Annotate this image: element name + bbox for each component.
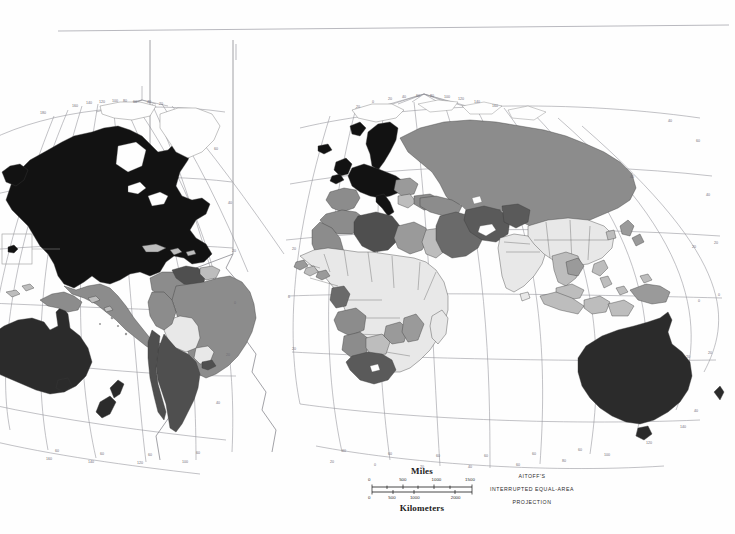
svg-text:20: 20 (714, 241, 718, 245)
svg-text:0: 0 (234, 301, 236, 305)
svg-text:60: 60 (148, 453, 152, 457)
svg-text:60: 60 (516, 463, 520, 467)
svg-text:60: 60 (388, 452, 392, 456)
svg-text:20: 20 (356, 105, 360, 109)
svg-text:60: 60 (55, 449, 59, 453)
svg-text:60: 60 (532, 452, 536, 456)
svg-text:20: 20 (708, 351, 712, 355)
svg-text:40: 40 (216, 401, 220, 405)
svg-text:60: 60 (196, 451, 200, 455)
svg-text:120: 120 (99, 100, 105, 104)
svg-text:20: 20 (292, 347, 296, 351)
svg-text:40: 40 (402, 95, 406, 99)
svg-text:40: 40 (706, 193, 710, 197)
svg-text:20: 20 (692, 245, 696, 249)
svg-text:80: 80 (430, 94, 434, 98)
svg-text:40: 40 (694, 409, 698, 413)
svg-text:20: 20 (292, 247, 296, 251)
svg-text:60: 60 (696, 139, 700, 143)
svg-text:120: 120 (458, 97, 464, 101)
svg-text:60: 60 (416, 94, 420, 98)
svg-text:60: 60 (342, 449, 346, 453)
svg-text:20: 20 (330, 460, 334, 464)
svg-text:60: 60 (436, 454, 440, 458)
svg-text:140: 140 (680, 425, 686, 429)
svg-text:140: 140 (474, 100, 480, 104)
svg-text:60: 60 (100, 452, 104, 456)
svg-text:60: 60 (578, 448, 582, 452)
svg-text:160: 160 (72, 104, 78, 108)
projection-line-2: INTERRUPTED EQUAL-AREA (452, 483, 612, 496)
svg-text:20: 20 (159, 102, 163, 106)
svg-text:0: 0 (288, 295, 290, 299)
svg-text:20: 20 (388, 97, 392, 101)
svg-text:80: 80 (562, 459, 566, 463)
svg-text:180: 180 (40, 111, 46, 115)
map-page: 60 40 20 0 20 40 160 140 120 100 80 60 4… (0, 0, 735, 534)
svg-text:80: 80 (123, 99, 127, 103)
svg-text:100: 100 (444, 95, 450, 99)
projection-note: AITOFF'S INTERRUPTED EQUAL-AREA PROJECTI… (452, 470, 612, 509)
svg-text:100: 100 (182, 460, 188, 464)
svg-text:20: 20 (686, 355, 690, 359)
svg-text:20: 20 (232, 249, 236, 253)
svg-text:100: 100 (112, 99, 118, 103)
svg-text:0: 0 (718, 293, 720, 297)
projection-line-3: PROJECTION (452, 496, 612, 509)
svg-text:160: 160 (492, 104, 498, 108)
svg-text:60: 60 (133, 100, 137, 104)
svg-text:40: 40 (147, 100, 151, 104)
svg-text:40: 40 (228, 201, 232, 205)
svg-text:0: 0 (698, 299, 700, 303)
svg-text:40: 40 (630, 175, 634, 179)
svg-text:120: 120 (137, 461, 143, 465)
svg-text:60: 60 (214, 147, 218, 151)
world-map-svg: 60 40 20 0 20 40 160 140 120 100 80 60 4… (0, 0, 735, 534)
svg-text:140: 140 (88, 460, 94, 464)
svg-text:60: 60 (484, 454, 488, 458)
svg-text:40: 40 (668, 119, 672, 123)
svg-text:160: 160 (46, 457, 52, 461)
svg-text:140: 140 (86, 101, 92, 105)
svg-text:20: 20 (226, 353, 230, 357)
svg-text:100: 100 (604, 453, 610, 457)
projection-line-1: AITOFF'S (452, 470, 612, 483)
svg-text:0: 0 (372, 100, 374, 104)
svg-text:120: 120 (646, 441, 652, 445)
